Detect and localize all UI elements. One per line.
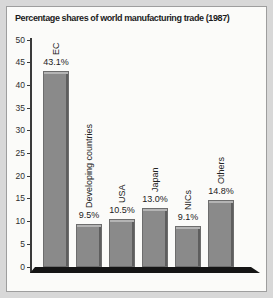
y-tick-label: 40 <box>4 80 25 90</box>
y-tick-mark <box>27 85 31 86</box>
y-tick-mark <box>27 267 31 268</box>
y-tick-mark <box>27 40 31 41</box>
y-tick-label: 15 <box>4 193 25 203</box>
y-tick-label: 10 <box>4 216 25 226</box>
y-tick-mark <box>27 130 31 131</box>
bar-value-label: 9.1% <box>165 212 211 222</box>
bar-category-label: USA <box>117 185 128 204</box>
bar <box>175 226 201 267</box>
bar-category-label: NICs <box>183 190 194 210</box>
y-tick-label: 50 <box>4 35 25 45</box>
bar-category-label: Others <box>216 157 227 184</box>
chart-window: Percentage shares of world manufacturing… <box>0 0 273 298</box>
y-tick-mark <box>27 62 31 63</box>
bar <box>109 219 135 267</box>
bar-value-label: 13.0% <box>132 194 178 204</box>
y-tick-mark <box>27 221 31 222</box>
y-tick-label: 0 <box>4 262 25 272</box>
y-tick-label: 35 <box>4 103 25 113</box>
y-tick-label: 5 <box>4 239 25 249</box>
y-tick-label: 30 <box>4 125 25 135</box>
y-tick-mark <box>27 153 31 154</box>
bar <box>208 200 234 267</box>
y-tick-label: 45 <box>4 57 25 67</box>
y-tick-label: 25 <box>4 148 25 158</box>
y-tick-mark <box>27 176 31 177</box>
y-tick-mark <box>27 198 31 199</box>
bar <box>76 224 102 267</box>
y-tick-mark <box>27 244 31 245</box>
bar-value-label: 10.5% <box>99 205 145 215</box>
y-tick-mark <box>27 108 31 109</box>
bar-category-label: Japan <box>150 167 161 192</box>
bar-value-label: 14.8% <box>198 186 244 196</box>
chart-title: Percentage shares of world manufacturing… <box>15 13 267 23</box>
chart-floor <box>30 267 260 273</box>
bar-category-label: Developing countries <box>84 124 95 208</box>
bar-value-label: 43.1% <box>33 57 79 67</box>
y-axis-line <box>30 38 32 273</box>
bar-category-label: EC <box>51 43 62 56</box>
bar <box>43 71 69 267</box>
y-tick-label: 20 <box>4 171 25 181</box>
